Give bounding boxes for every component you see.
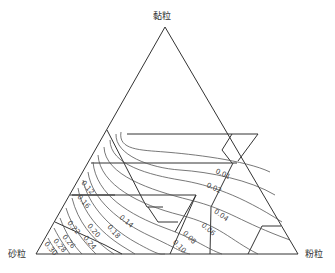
contour-label: 0.04 xyxy=(212,208,230,224)
contour-label: 0.14 xyxy=(118,213,136,229)
vertex-label-clay: 黏粒 xyxy=(153,9,171,22)
vertex-label-silt: 粉粒 xyxy=(305,247,323,260)
contour-label: 0.01 xyxy=(214,167,232,181)
contour-labels: 0.010.020.040.060.080.100.120.140.160.18… xyxy=(42,167,231,257)
contour-label: 0.02 xyxy=(205,181,223,195)
contour-label: 0.08 xyxy=(181,229,198,246)
contour-label: 0.06 xyxy=(200,221,218,237)
contour-label: 0.18 xyxy=(105,223,121,240)
ternary-diagram: 0.010.020.040.060.080.100.120.140.160.18… xyxy=(0,0,335,273)
triangle-frame xyxy=(36,27,298,254)
vertex-label-sand: 砂粒 xyxy=(8,247,26,260)
